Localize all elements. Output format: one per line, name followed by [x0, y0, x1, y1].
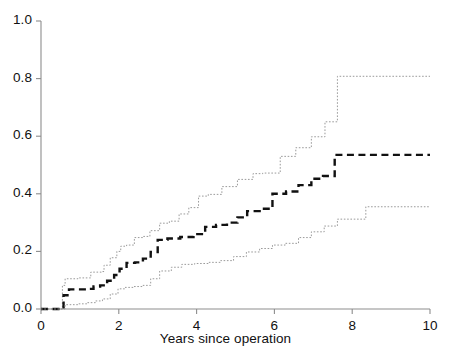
plot-canvas	[0, 0, 451, 359]
axis-lines	[41, 21, 430, 309]
y-tick-label: 0.0	[0, 300, 32, 315]
y-tick-label: 0.4	[0, 185, 32, 200]
y-tick-label: 0.8	[0, 70, 32, 85]
x-axis-title: Years since operation	[0, 331, 451, 346]
series-upper-confidence-band	[41, 76, 430, 309]
figure: 0.00.20.40.60.81.0 0246810 Years since o…	[0, 0, 451, 359]
y-tick-label: 0.6	[0, 127, 32, 142]
series-lines	[41, 76, 430, 309]
y-tick-label: 0.2	[0, 242, 32, 257]
series-cumulative-incidence-estimate	[41, 155, 430, 309]
y-tick-label: 1.0	[0, 12, 32, 27]
axis-ticks	[36, 21, 430, 314]
